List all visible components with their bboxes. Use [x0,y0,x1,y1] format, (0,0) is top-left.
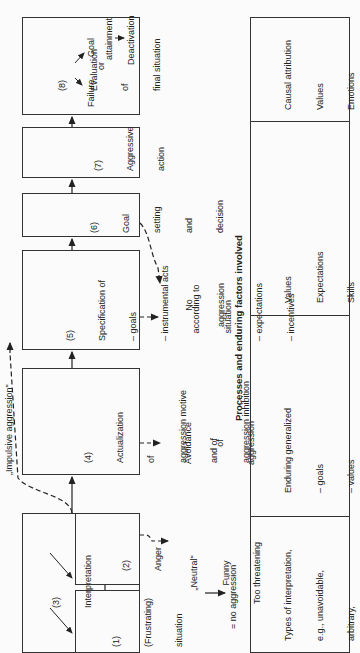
neutral-text: „Neutral" [189,523,200,623]
or-label: or [96,62,107,70]
table-line: – goals [315,401,326,493]
box7-label: (7) Aggressive action [72,126,188,171]
attainment-label: attainment [104,18,115,60]
failure-label: Failure [86,79,97,107]
box8-number: (8) [57,38,68,91]
box6-line: and [184,200,195,233]
aggression-process-diagram: (3) Interpretation (1) (Frustrating) sit… [0,0,360,653]
box7-number: (7) [93,126,104,171]
goal-label: Goal [86,38,97,57]
table-line: Values [315,40,326,110]
table-cell-text: Enduring generalized – goals – values – … [262,401,360,493]
no-aggression-text: No [184,275,195,335]
box6-line: setting [152,200,163,233]
box2-number: (2) [121,547,132,571]
table-line: Enduring generalized [283,401,294,493]
box1-number: (1) [111,598,122,647]
box6-line: decision [215,200,226,233]
table-cell-text: Values Expectations Skills Habits Nonagg… [262,243,360,303]
box7-line: action [156,126,167,171]
no-aggression-text: aggression [216,275,227,335]
box2-text: Anger [153,547,164,571]
box5-line: – goals [128,265,139,341]
table-line: Skills [346,243,357,303]
table-cell-text: Causal attribution Values Emotions [262,40,360,110]
box3-number: (3) [51,555,62,608]
box6-label: (6) Goal setting and decision [68,200,247,233]
table-title: Processes and enduring factors involved [234,235,245,421]
box1-line: (Frustrating) [143,598,154,647]
box6-line: Goal [121,200,132,233]
table-line: arbitrary, [346,549,357,641]
table-cell-text: Types of interpretation, e.g., unavoidab… [262,549,360,641]
table-line: Types of interpretation, [283,549,294,641]
table-line: Causal attribution [283,40,294,110]
box8-line: final situation [152,38,163,91]
table-line: Emotions [346,40,357,110]
box7-line: Aggressive [125,126,136,171]
deactivation-label: Deactivation [126,15,137,65]
no-aggression-equals-label: = no aggression [228,565,239,629]
table-line: Expectations [315,243,326,303]
box4-number: (4) [83,381,94,463]
avoidance-text: Avoidance [183,413,194,473]
table-line: Values [283,243,294,303]
table-line: e.g., unavoidable, [315,549,326,641]
box6-number: (6) [89,200,100,233]
box5-number: (5) [65,265,76,341]
impulsive-aggression-label: „Impulsive aggression" [4,384,15,475]
table-line: – values [346,401,357,493]
box5-line: Specification of [97,265,108,341]
box4-line: Actualization [115,381,126,463]
box4-line: of [146,381,157,463]
avoidance-text: of [215,413,226,473]
